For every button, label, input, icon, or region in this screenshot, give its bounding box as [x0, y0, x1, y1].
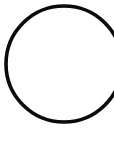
- image-canvas: Circle outline: [0, 0, 114, 141]
- circle-outline-svg: [0, 0, 114, 141]
